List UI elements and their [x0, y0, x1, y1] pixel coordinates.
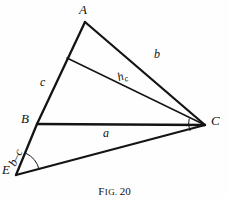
segment-altitude-hc: [67, 58, 205, 125]
vertex-label-b: B: [21, 112, 29, 125]
figure-container: A B C E b c a hc b–c FIG.20: [0, 0, 229, 198]
side-label-a: a: [103, 127, 109, 139]
figure-caption: FIG.20: [0, 181, 229, 198]
caption-prefix-rest: IG.: [105, 187, 118, 197]
vertex-label-e: E: [2, 163, 10, 176]
caption-prefix: FIG.: [98, 187, 117, 197]
segment-side-b: [85, 22, 205, 125]
geometry-diagram: [0, 0, 229, 198]
side-label-c: c: [40, 76, 45, 88]
caption-number: 20: [120, 185, 131, 197]
segment-side-a: [37, 124, 205, 125]
vertex-label-a: A: [79, 3, 87, 16]
vertex-label-c: C: [211, 114, 220, 127]
segment-ec: [16, 125, 205, 175]
angle-arc-at-e: [26, 153, 39, 169]
segment-side-c: [37, 22, 85, 124]
side-label-b: b: [154, 48, 160, 60]
